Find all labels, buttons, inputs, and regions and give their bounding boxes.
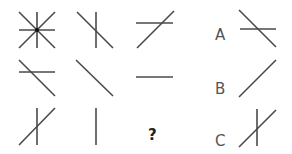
option-a-figure[interactable]	[239, 10, 276, 47]
option-a-label[interactable]: A	[215, 28, 225, 43]
figure-r3c1	[19, 108, 55, 145]
figure-r2c2	[76, 60, 113, 96]
figure-r1c1-asterisk	[19, 12, 55, 48]
option-c-label[interactable]: C	[215, 134, 225, 149]
option-b-label[interactable]: B	[215, 82, 225, 97]
figure-r1c2	[77, 12, 113, 48]
puzzle-canvas	[0, 0, 292, 154]
figure-r1c3	[136, 11, 174, 48]
missing-figure-question-mark: ?	[148, 128, 157, 143]
option-c-figure[interactable]	[239, 109, 276, 147]
figure-r2c1	[19, 60, 55, 96]
option-b-figure[interactable]	[239, 60, 276, 97]
